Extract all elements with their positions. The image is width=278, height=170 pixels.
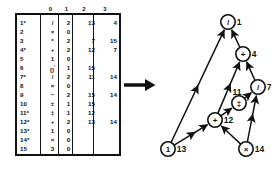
table-row: 9−21514 <box>17 90 119 99</box>
row-col1: 1 <box>62 63 75 72</box>
row-col1: 0 <box>62 135 75 144</box>
row-col1: 0 <box>62 27 75 36</box>
row-col2: 13 <box>76 117 95 126</box>
row-col1: 2 <box>62 36 75 45</box>
row-col3: 14 <box>97 90 117 99</box>
dag-node-operator: ‡ <box>237 99 241 108</box>
row-col2: 13 <box>76 18 95 27</box>
table-row: 6()'115 <box>17 63 119 72</box>
dag-node[interactable]: /7 <box>251 80 272 94</box>
row-index: 7* <box>20 72 42 81</box>
row-index: 1* <box>20 18 42 27</box>
column-header-2: 2 <box>75 6 93 13</box>
dag-edge <box>174 125 207 146</box>
dag-edge <box>221 126 240 144</box>
table-body: 1*/21342×03*27154*+21275106()'1157*/2111… <box>17 15 119 154</box>
dag-node-label: 13 <box>177 144 187 154</box>
row-index: 11* <box>20 108 42 117</box>
dag-node[interactable]: +12 <box>208 113 234 127</box>
row-col3: 14 <box>97 117 117 126</box>
row-index: 9 <box>20 90 42 99</box>
row-index: 8 <box>20 81 42 90</box>
dag-node-operator: × <box>244 145 249 154</box>
row-col1: 2 <box>62 18 75 27</box>
table-frame: 1*/21342×03*27154*+21275106()'1157*/2111… <box>15 13 121 156</box>
row-col1: 2 <box>62 45 75 54</box>
dag-node[interactable]: 113 <box>161 142 187 156</box>
row-operator: ± <box>44 99 61 108</box>
row-index: 2 <box>20 27 42 36</box>
table-row: 8×0 <box>17 81 119 90</box>
table-row: 1*/2134 <box>17 18 119 27</box>
row-index: 14* <box>20 135 42 144</box>
dag-node[interactable]: ‡11 <box>232 87 246 110</box>
row-index: 6 <box>20 63 42 72</box>
table-row: 13*10 <box>17 126 119 135</box>
row-col1: 0 <box>62 81 75 90</box>
table-row: 2×0 <box>17 27 119 36</box>
row-col1: 2 <box>62 72 75 81</box>
dag-node[interactable]: /1 <box>221 15 242 29</box>
row-col1: 0 <box>62 126 75 135</box>
dag-nodes: /1+4/7‡11+12113×14 <box>161 15 272 156</box>
row-col2: 15 <box>76 99 95 108</box>
row-col2: 11 <box>76 72 95 81</box>
table-row: 11*‡112 <box>17 108 119 117</box>
row-col2: 15 <box>76 63 95 72</box>
dag-edge <box>245 93 252 99</box>
row-operator: ‡ <box>44 108 61 117</box>
dag-node-operator: + <box>241 50 246 59</box>
row-operator: * <box>44 36 61 45</box>
dag-node-label: 11 <box>233 87 242 97</box>
row-col3: 7 <box>97 45 117 54</box>
table-row: 510 <box>17 54 119 63</box>
dag-node-operator: + <box>213 116 218 125</box>
row-index: 4* <box>20 45 42 54</box>
row-operator: / <box>44 72 61 81</box>
dag-node-operator: 1 <box>166 145 171 154</box>
dag-edge <box>247 62 255 81</box>
row-operator: + <box>44 45 61 54</box>
table-row: 10±115 <box>17 99 119 108</box>
row-operator: × <box>44 81 61 90</box>
row-index: 3 <box>20 36 42 45</box>
row-operator: / <box>44 18 61 27</box>
dag-node-label: 14 <box>255 144 265 154</box>
dag-node[interactable]: +4 <box>236 47 257 61</box>
dag-node-label: 4 <box>252 49 257 59</box>
table-row: 12*+21314 <box>17 117 119 126</box>
row-index: 15 <box>20 144 42 153</box>
row-col3: 15 <box>97 36 117 45</box>
row-index: 12* <box>20 117 42 126</box>
dag-node-label: 7 <box>267 82 272 92</box>
column-header-0: 0 <box>42 6 59 13</box>
row-col2: 7 <box>76 36 95 45</box>
row-operator: × <box>44 135 61 144</box>
dag-node[interactable]: ×14 <box>239 142 265 156</box>
row-col3: 4 <box>97 18 117 27</box>
dag-edge <box>247 96 256 142</box>
row-index: 13* <box>20 126 42 135</box>
dag-node-label: 12 <box>224 115 234 125</box>
row-col1: 0 <box>62 144 75 153</box>
table-row: 1530 <box>17 144 119 153</box>
figure-root: 0 1 2 3 1*/21342×03*27154*+21275106()'11… <box>0 0 278 170</box>
row-operator: + <box>44 117 61 126</box>
table-row: 4*+2127 <box>17 45 119 54</box>
triples-table: 0 1 2 3 1*/21342×03*27154*+21275106()'11… <box>15 6 121 156</box>
row-col1: 2 <box>62 90 75 99</box>
row-index: 5 <box>20 54 42 63</box>
row-col2: 15 <box>76 90 95 99</box>
column-header-1: 1 <box>60 6 73 13</box>
row-operator: 3 <box>44 144 61 153</box>
table-row: 14*×0 <box>17 135 119 144</box>
row-operator: × <box>44 27 61 36</box>
row-operator: − <box>44 90 61 99</box>
row-col2: 12 <box>76 108 95 117</box>
dag-graph: /1+4/7‡11+12113×14 <box>145 2 278 170</box>
row-col1: 1 <box>62 108 75 117</box>
row-col1: 0 <box>62 54 75 63</box>
row-index: 10 <box>20 99 42 108</box>
row-col2: 12 <box>76 45 95 54</box>
row-col1: 1 <box>62 99 75 108</box>
